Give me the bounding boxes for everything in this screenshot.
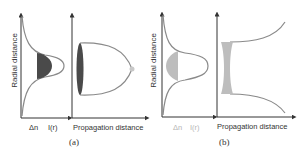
panel-b-intensity-label: I(r) <box>190 123 200 132</box>
panel-a-input-beam-fill <box>77 43 84 95</box>
panel-b-radial-distance-label: Radial distance <box>149 29 158 93</box>
panel-a-delta-n-fill <box>37 53 52 79</box>
panel-a-propagation-label: Propagation distance <box>73 123 143 132</box>
panel-a <box>21 15 147 118</box>
panel-a-intensity-label: I(r) <box>48 123 58 132</box>
panel-a-focusing-beam <box>80 43 132 95</box>
panel-b-propagation-label: Propagation distance <box>217 122 287 131</box>
panel-b-defocusing-beam-bottom <box>230 94 285 113</box>
panel-b-caption: (b) <box>219 137 230 147</box>
panel-b-input-beam-fill <box>221 42 233 94</box>
panel-b-delta-n-label: Δn <box>173 123 182 132</box>
panel-a-delta-n-label: Δn <box>29 123 38 132</box>
panel-b <box>162 14 294 117</box>
panel-b-delta-n-fill <box>166 51 178 81</box>
panel-a-radial-distance-label: Radial distance <box>10 29 19 93</box>
panel-b-defocusing-beam-top <box>230 22 285 42</box>
panel-a-caption: (a) <box>69 137 79 147</box>
panel-a-focus-dot <box>130 67 135 72</box>
